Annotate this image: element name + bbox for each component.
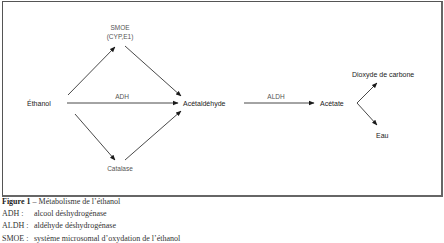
legend-abbr: SMOE : (2, 235, 34, 243)
enzyme-smoe-detail: (CYP,E1) (107, 34, 134, 41)
node-co2: Dioxyde de carbone (352, 71, 414, 78)
legend-abbr: ALDH : (2, 222, 34, 230)
arrow-smoe-to-acetaldehyde (125, 46, 181, 96)
enzyme-aldh: ALDH (267, 94, 284, 101)
legend-abbr: ADH : (2, 210, 34, 218)
enzyme-catalase: Catalase (107, 166, 133, 173)
figure-title: – Métabolisme de l’éthanol (31, 197, 121, 206)
figure-caption: Figure 1 – Métabolisme de l’éthanol (2, 198, 120, 206)
node-water: Eau (376, 132, 388, 139)
legend-text: alcool déshydrogénase (34, 209, 107, 218)
node-ethanol: Éthanol (27, 100, 51, 107)
enzyme-smoe: SMOE (CYP,E1) (107, 25, 134, 40)
legend-text: aldéhyde déshydrogénase (34, 221, 116, 230)
enzyme-smoe-name: SMOE (107, 25, 134, 32)
arrow-acetate-to-co2 (357, 83, 377, 103)
legend-item: ADH :alcool déshydrogénase (2, 210, 107, 218)
legend-item: ALDH :aldéhyde déshydrogénase (2, 222, 116, 230)
legend-item: SMOE :système microsomal d’oxydation de … (2, 235, 180, 243)
arrow-ethanol-to-catalase (75, 114, 115, 160)
arrow-ethanol-to-smoe (68, 47, 115, 95)
node-acetate: Acétate (320, 100, 344, 107)
legend-text: système microsomal d’oxydation de l’étha… (34, 234, 180, 243)
arrow-catalase-to-acetaldehyde (125, 111, 181, 160)
node-acetaldehyde: Acétaldéhyde (183, 100, 225, 107)
enzyme-adh: ADH (115, 94, 129, 101)
figure-label: Figure 1 (2, 197, 31, 206)
arrow-acetate-to-water (357, 103, 377, 125)
